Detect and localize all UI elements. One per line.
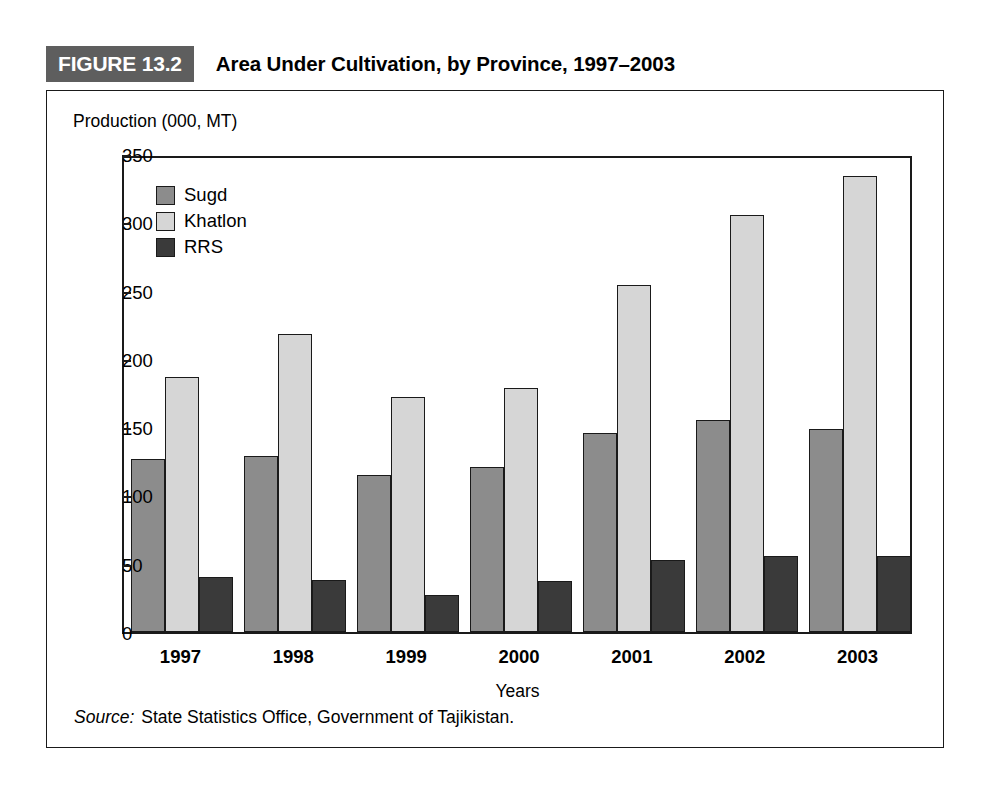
x-tick-1998: 1998 [273,646,314,668]
source-note: Source:State Statistics Office, Governme… [74,707,514,728]
x-axis-label-text: Years [495,681,539,701]
bar-group [583,158,685,632]
bar-sugd-1999 [357,475,391,632]
y-tick-mark [122,428,131,430]
bar-khatlon-1997 [165,377,199,632]
y-tick-mark [122,155,131,157]
figure-title: Area Under Cultivation, by Province, 199… [216,52,675,76]
bar-rrs-1997 [199,577,233,632]
legend-swatch-rrs-icon [156,238,175,257]
y-tick-mark [122,360,131,362]
bar-sugd-1997 [131,459,165,632]
x-axis-label: Years [0,681,995,702]
legend-swatch-khatlon-icon [156,212,175,231]
legend-item-khatlon: Khatlon [156,208,247,234]
y-tick-label: 0 [122,623,141,645]
bar-group [244,158,346,632]
bar-group [470,158,572,632]
legend-label: Sugd [184,184,227,206]
y-tick-mark [122,496,131,498]
legend-label: RRS [184,236,223,258]
legend-item-sugd: Sugd [156,182,247,208]
y-axis-label: Production (000, MT) [73,111,237,132]
bar-rrs-2003 [877,556,911,632]
bar-khatlon-2003 [843,176,877,632]
bar-group [809,158,911,632]
bar-rrs-1998 [312,580,346,632]
legend-item-rrs: RRS [156,234,247,260]
figure-page: FIGURE 13.2 Area Under Cultivation, by P… [0,0,995,795]
bar-sugd-1998 [244,456,278,632]
x-tick-2000: 2000 [498,646,539,668]
x-tick-2001: 2001 [611,646,652,668]
bar-sugd-2002 [696,420,730,632]
figure-number-badge: FIGURE 13.2 [46,46,194,82]
bar-sugd-2000 [470,467,504,632]
bar-sugd-2003 [809,429,843,632]
source-text: State Statistics Office, Government of T… [141,707,514,727]
legend-swatch-sugd-icon [156,186,175,205]
figure-header: FIGURE 13.2 Area Under Cultivation, by P… [46,44,946,84]
bar-rrs-2000 [538,581,572,632]
x-tick-1999: 1999 [386,646,427,668]
source-keyword: Source: [74,707,134,727]
x-tick-1997: 1997 [160,646,201,668]
bar-sugd-2001 [583,433,617,632]
x-tick-2002: 2002 [724,646,765,668]
y-tick-mark [122,292,131,294]
legend-label: Khatlon [184,210,247,232]
bar-group [696,158,798,632]
bar-rrs-1999 [425,595,459,632]
bar-khatlon-2000 [504,388,538,632]
chart-legend: SugdKhatlonRRS [156,182,247,260]
bar-group [357,158,459,632]
bar-khatlon-2001 [617,285,651,632]
bar-rrs-2002 [764,556,798,632]
y-tick-mark [122,223,131,225]
bar-khatlon-2002 [730,215,764,632]
bar-rrs-2001 [651,560,685,632]
bar-khatlon-1998 [278,334,312,632]
y-tick-mark [122,565,131,567]
x-tick-2003: 2003 [837,646,878,668]
bar-khatlon-1999 [391,397,425,632]
